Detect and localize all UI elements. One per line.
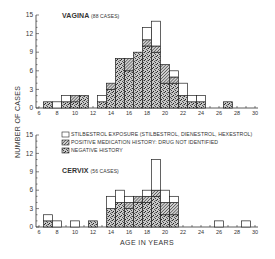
bar-segment [53,221,62,227]
vagina-chart: 03691215681012141618202224262830 [26,11,258,116]
bar-age-7 [44,215,53,227]
bar-segment [188,96,197,102]
bar-segment [89,221,98,227]
y-tick-label: 0 [29,104,33,111]
x-tick-label: 12 [90,229,96,235]
x-tick-label: 8 [55,110,58,116]
bar-segment [98,102,107,108]
vagina-title: VAGINA [62,12,89,19]
bar-segment [161,215,170,227]
x-tick-label: 8 [55,229,58,235]
bar-age-19 [152,21,161,108]
bar-segment [44,221,53,227]
bar-segment [143,40,152,46]
x-tick-label: 18 [144,229,150,235]
bar-age-15 [116,58,125,108]
bar-segment [116,190,125,202]
bar-segment [107,196,116,208]
bar-age-23 [188,96,197,108]
cervix-title: CERVIX [62,167,89,174]
bar-segment [125,202,134,208]
x-tick-label: 28 [234,229,240,235]
bar-segment [152,196,161,227]
bar-segment [170,83,179,108]
bar-age-7 [44,102,53,108]
y-tick-label: 12 [26,30,34,37]
vagina-case-count: (88 CASES) [91,13,119,19]
x-tick-label: 26 [216,229,222,235]
bar-age-20 [161,190,170,227]
bar-segment [71,102,80,108]
y-axis-label: NUMBER OF CASES [14,86,21,158]
bar-segment [170,71,179,77]
bar-age-14 [107,83,116,108]
y-tick-label: 9 [29,48,33,55]
bar-age-11 [80,96,89,108]
bar-segment [152,52,161,108]
bar-segment [170,77,179,83]
bar-age-21 [170,71,179,108]
bar-age-26 [215,221,224,227]
bar-age-20 [161,65,170,108]
x-tick-label: 26 [216,110,222,116]
bar-age-10 [71,221,80,227]
bar-segment [125,58,134,70]
x-tick-label: 16 [126,110,132,116]
bar-segment [125,71,134,108]
bar-segment [134,52,143,108]
bar-segment [152,21,161,46]
bar-age-17 [134,196,143,227]
x-tick-label: 18 [144,110,150,116]
bar-segment [143,190,152,196]
bar-segment [161,202,170,214]
bar-segment [107,83,116,89]
bar-segment [152,46,161,52]
bar-age-8 [53,102,62,108]
bar-segment [44,102,53,108]
bar-age-10 [71,96,80,108]
bar-age-21 [170,196,179,227]
bar-segment [116,202,125,227]
bar-segment [161,65,170,84]
bar-age-12 [89,221,98,227]
y-tick-label: 12 [26,150,34,157]
bar-age-18 [143,27,152,108]
bar-segment [179,83,188,95]
bar-segment [44,215,53,221]
bar-segment [152,160,161,191]
bar-segment [161,190,170,202]
bar-segment [134,202,143,227]
bar-segment [242,221,251,227]
cervix-panel-title: CERVIX (56 CASES) [62,167,119,174]
bar-segment [116,58,125,108]
x-tick-label: 28 [234,110,240,116]
x-tick-label: 10 [72,229,78,235]
bar-segment [143,46,152,108]
bar-segment [143,27,152,39]
y-tick-label: 9 [29,168,33,175]
y-tick-label: 6 [29,67,33,74]
bar-segment [170,202,179,214]
bar-segment [71,96,80,102]
bar-age-18 [143,190,152,227]
bar-segment [197,102,206,108]
x-tick-label: 30 [252,110,258,116]
bar-segment [143,196,152,202]
x-tick-label: 24 [198,229,204,235]
x-tick-label: 22 [180,229,186,235]
x-tick-label: 6 [37,229,40,235]
bar-age-27 [224,102,233,108]
x-tick-label: 10 [72,110,78,116]
bar-segment [170,196,179,202]
bar-segment [71,221,80,227]
y-tick-label: 3 [29,205,33,212]
bar-segment [98,96,107,102]
bar-segment [107,209,116,227]
legend-label-stilbestrol: STILBESTROL EXPOSURE (STILBESTROL, DIENE… [71,131,252,137]
legend-swatch-negative [62,148,69,153]
x-tick-label: 24 [198,110,204,116]
x-tick-label: 16 [126,229,132,235]
bar-segment [53,102,62,108]
bar-age-13 [98,96,107,108]
bar-age-8 [53,221,62,227]
